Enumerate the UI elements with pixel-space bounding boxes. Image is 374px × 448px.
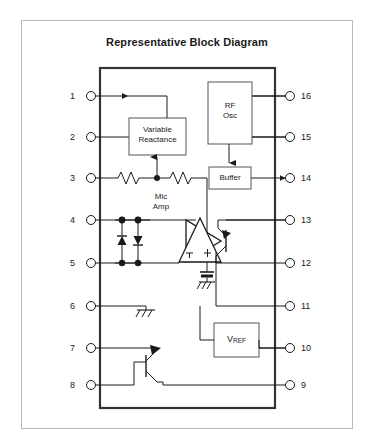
pin-1[interactable]: [87, 92, 129, 101]
ground-pin6: [136, 310, 155, 317]
pin-label-11: 11: [301, 302, 310, 311]
cap-plate-bottom: [201, 275, 213, 278]
pin-label-1: 1: [70, 92, 75, 101]
pin-label-8: 8: [70, 381, 75, 390]
block-diagram-page: Representative Block Diagram: [0, 0, 374, 448]
pin-label-15: 15: [301, 133, 311, 142]
pin-label-4: 4: [70, 216, 75, 225]
junction-dot-pin3: [154, 175, 160, 181]
q1-arrow: [150, 345, 161, 355]
diagram-canvas: [0, 0, 374, 448]
pin-label-7: 7: [70, 344, 75, 353]
pin-label-16: 16: [301, 92, 311, 101]
wire-vref-left: [200, 306, 214, 340]
pin-label-2: 2: [70, 133, 75, 142]
pin-label-13: 13: [301, 216, 311, 225]
junction-dot-4b: [135, 217, 142, 224]
wire-vr-to-pin1: [128, 96, 167, 118]
diode-b-triangle: [134, 236, 143, 245]
pin-7[interactable]: [87, 344, 155, 353]
rf-osc-block: [208, 82, 252, 144]
ground-amp: [197, 282, 215, 289]
pin-label-14: 14: [301, 174, 311, 183]
vref-block: [214, 323, 259, 357]
pin-label-3: 3: [70, 174, 75, 183]
resistor-2: [157, 172, 207, 184]
junction-dot-5b: [135, 260, 141, 266]
pin-8[interactable]: [87, 381, 135, 390]
resistor-1: [118, 172, 157, 184]
pin-2[interactable]: [87, 133, 130, 142]
buffer-block: [209, 167, 251, 189]
junction-dot-4a: [119, 217, 126, 224]
pin-14[interactable]: [251, 174, 295, 183]
pin-label-12: 12: [301, 259, 311, 268]
pin-label-9: 9: [301, 381, 306, 390]
pin-label-10: 10: [301, 344, 311, 353]
q1-emitter: [146, 371, 163, 385]
q1-base-lead: [134, 362, 146, 385]
pin-3[interactable]: [87, 174, 119, 183]
variable-reactance-block: [129, 118, 186, 155]
pin-label-5: 5: [70, 259, 75, 268]
junction-dot-5a: [119, 260, 125, 266]
pin-11[interactable]: [216, 302, 295, 311]
pin-6[interactable]: [87, 302, 147, 311]
diode-a-triangle: [118, 236, 127, 245]
pin-label-6: 6: [70, 302, 75, 311]
pin-12[interactable]: [238, 259, 295, 268]
